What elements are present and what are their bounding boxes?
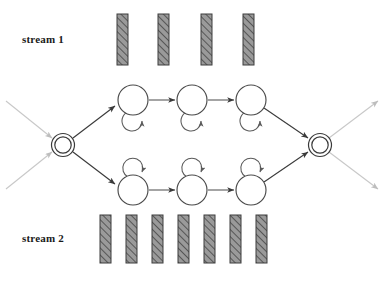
self-loop-bottom-node-3 xyxy=(241,158,261,177)
stream-1-bar xyxy=(201,14,212,65)
stream-2-bar xyxy=(152,215,163,263)
inbound-upper-left-arrow xyxy=(6,101,52,138)
bottom-chain-nodes xyxy=(118,175,266,205)
branch-arrows-left xyxy=(73,106,115,184)
network-stream-diagram: stream 1 stream 2 xyxy=(0,0,387,283)
external-outbound-arrows xyxy=(329,101,378,189)
branch-arrow-to-top-chain xyxy=(73,106,115,138)
inbound-lower-left-arrow xyxy=(6,152,52,189)
stream-2-label: stream 2 xyxy=(22,232,64,244)
branch-arrow-to-bottom-chain xyxy=(73,152,115,184)
bottom-node-3 xyxy=(236,175,266,205)
stream-1-label: stream 1 xyxy=(22,33,64,45)
top-node-1 xyxy=(118,85,148,115)
stream-2-bar xyxy=(100,215,111,263)
stream-1-bar xyxy=(158,14,169,65)
outbound-upper-right-arrow xyxy=(329,101,378,138)
stream-2-bar xyxy=(178,215,189,263)
stream-2-bar xyxy=(256,215,267,263)
stream-1-bar xyxy=(117,14,128,65)
bottom-chain-self-loops xyxy=(123,158,261,177)
self-loop-bottom-node-2 xyxy=(182,158,202,177)
stream-2-bar xyxy=(126,215,137,263)
outbound-lower-right-arrow xyxy=(329,152,378,189)
external-inbound-arrows xyxy=(6,101,52,189)
merge-arrows-right xyxy=(264,108,308,182)
top-node-2 xyxy=(177,85,207,115)
self-loop-bottom-node-1 xyxy=(123,158,143,177)
left-hub-node xyxy=(52,134,75,157)
stream-1-bars xyxy=(117,14,254,65)
bottom-node-2 xyxy=(177,175,207,205)
merge-arrow-from-top-chain xyxy=(264,108,308,138)
stream-2-bar xyxy=(204,215,215,263)
stream-2-bar xyxy=(230,215,241,263)
bottom-node-1 xyxy=(118,175,148,205)
right-hub-node xyxy=(309,134,332,157)
stream-1-bar xyxy=(243,14,254,65)
stream-2-bars xyxy=(100,215,267,263)
top-node-3 xyxy=(236,85,266,115)
merge-arrow-from-bottom-chain xyxy=(264,152,308,182)
top-chain-nodes xyxy=(118,85,266,115)
